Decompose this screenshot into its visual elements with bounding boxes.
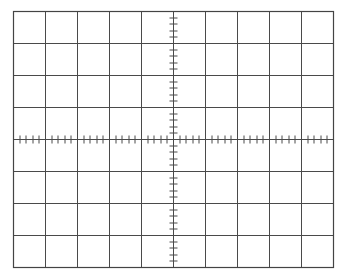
oscilloscope-graticule — [0, 0, 348, 271]
